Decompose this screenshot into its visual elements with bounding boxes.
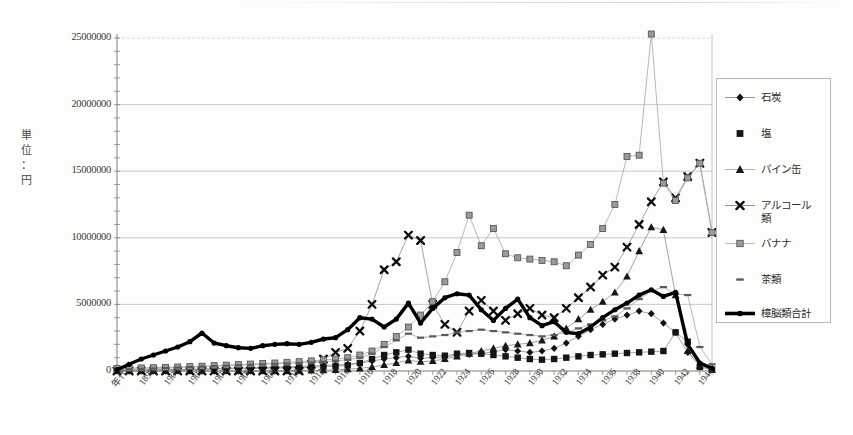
data-point-marker [296,362,303,364]
data-point-marker [405,333,412,335]
data-point-marker [588,241,594,247]
legend-item[interactable]: 茶類 [723,273,827,286]
legend-item[interactable]: 塩 [723,127,827,140]
data-point-marker [478,329,485,331]
data-point-marker [599,272,606,279]
y-tick-label: 5000000 [31,297,111,308]
data-point-marker [648,310,655,317]
data-point-marker [648,31,654,37]
data-point-marker [661,294,666,299]
data-point-marker [624,244,631,251]
data-point-marker [502,317,509,324]
data-point-marker [636,221,643,228]
data-point-marker [551,334,558,336]
data-point-marker [575,327,582,329]
data-point-marker [405,356,413,363]
chart-legend: 石炭塩パイン缶アルコール類バナナ茶類樟脳類合計 [716,78,831,323]
legend-item[interactable]: 樟脳類合計 [723,307,827,320]
legend-label: バナナ [761,237,791,250]
series-dash [113,286,715,371]
data-point-marker [648,348,654,354]
data-point-marker [224,343,229,348]
data-point-marker [575,252,581,258]
data-point-marker [587,352,593,358]
data-point-marker [624,311,631,318]
data-point-marker [624,350,630,356]
data-point-marker [575,315,583,322]
data-point-marker [333,335,338,340]
series-circle-thick [114,287,714,372]
data-point-marker [151,352,156,357]
data-point-marker [381,352,387,358]
data-point-marker [672,329,678,335]
legend-marker-dash-icon [723,273,757,286]
data-point-marker [454,249,460,255]
data-point-marker [454,291,459,296]
chart-canvas: 単 位 ： 円 05000000100000001500000020000000… [0,0,853,435]
data-point-marker [587,306,595,313]
data-point-marker [503,251,509,257]
data-point-marker [321,336,326,341]
legend-item[interactable]: 石炭 [723,91,827,104]
data-point-marker [526,334,533,336]
data-point-marker [429,335,436,337]
y-axis-title-char-2: 位 [14,143,38,158]
legend-item[interactable]: パイン缶 [723,163,827,176]
data-point-marker [526,305,533,312]
y-axis-title-char-4: 円 [14,173,38,188]
data-point-marker [539,347,546,354]
data-point-marker [260,343,265,348]
legend-label: アルコール類 [761,199,811,225]
data-point-marker [647,223,655,230]
data-point-marker [357,315,362,320]
data-point-marker [685,342,690,347]
y-tick-label: 0 [31,364,111,375]
data-point-marker [600,351,606,357]
data-point-marker [478,243,484,249]
data-point-marker [187,339,192,344]
data-point-marker [588,324,593,329]
data-point-marker [503,306,508,311]
data-point-marker [673,198,679,204]
data-point-marker [369,356,375,362]
data-point-marker [199,330,204,335]
data-point-marker [478,297,485,304]
legend-item[interactable]: バナナ [723,237,827,250]
data-point-marker [283,362,290,364]
legend-item[interactable]: アルコール類 [723,199,827,225]
data-point-marker [563,305,570,312]
series-line [117,34,712,368]
data-point-marker [442,279,448,285]
data-point-marker [356,357,363,359]
data-point-marker [600,225,606,231]
data-point-marker [611,315,618,317]
data-point-marker [418,320,423,325]
data-point-marker [430,299,436,305]
data-point-marker [417,337,424,339]
data-point-marker [636,152,642,158]
top-edge-artifact [240,2,840,3]
data-point-marker [538,335,545,337]
data-point-marker [405,324,411,330]
data-point-marker [515,354,521,360]
data-point-marker [502,353,508,359]
data-point-marker [344,345,351,352]
data-point-marker [490,225,496,231]
data-point-marker [308,361,315,363]
data-point-marker [515,296,520,301]
data-point-marker [624,154,630,160]
data-point-marker [514,347,521,354]
data-point-marker [673,290,678,295]
legend-marker-diamond-icon [723,91,757,104]
data-point-marker [417,350,423,356]
series-line [117,163,712,371]
data-point-marker [284,341,289,346]
data-point-marker [297,342,302,347]
data-point-marker [697,160,703,166]
data-point-marker [162,367,169,369]
data-point-marker [697,360,702,365]
data-point-marker [575,294,582,301]
data-point-marker [636,307,643,314]
data-point-marker [466,308,473,315]
data-point-marker [527,315,532,320]
